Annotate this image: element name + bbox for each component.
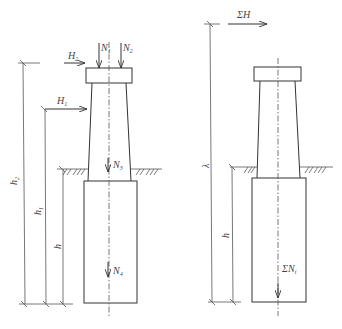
right-h-dimension-label: h xyxy=(220,233,231,238)
h1-dimension-label: h1 xyxy=(32,207,44,215)
right-ground-left xyxy=(230,167,257,173)
sum-h-force-label: ΣH xyxy=(236,9,251,20)
right-h-dimension-line xyxy=(229,164,235,302)
n2-force-label: N2 xyxy=(122,42,133,54)
left-footing xyxy=(84,181,137,303)
right-pier-diagram: ΣH ΣNi λ h xyxy=(200,9,333,316)
left-ground-right xyxy=(131,169,162,175)
left-shaft-right-edge xyxy=(126,83,131,181)
h-dimension-line xyxy=(59,166,65,304)
h1-dimension-line xyxy=(41,106,47,304)
lambda-dimension-label: λ xyxy=(200,163,211,169)
left-shaft-left-edge xyxy=(88,83,92,181)
h-dimension-label: h xyxy=(52,244,63,249)
h2-dimension-label: h2 xyxy=(8,177,20,185)
h2-force-label: H2 xyxy=(67,50,78,62)
left-pier-diagram: H2 H1 N1 N2 N3 N4 h2 h1 xyxy=(8,42,162,316)
left-ground-left xyxy=(57,169,88,175)
h2-dimension-line xyxy=(18,60,40,304)
right-shaft-right-edge xyxy=(295,81,300,178)
right-ground-right xyxy=(300,167,333,173)
n4-force-label: N4 xyxy=(112,265,123,277)
right-pier-cap xyxy=(254,67,301,81)
lambda-dimension-line xyxy=(204,21,220,302)
sum-n-force-label: ΣNi xyxy=(281,263,297,275)
right-shaft-left-edge xyxy=(257,81,260,178)
right-bottom-dimension-baseline xyxy=(208,299,241,305)
n3-force-label: N3 xyxy=(112,159,123,171)
h1-force-label: H1 xyxy=(56,95,67,107)
diagram-svg: H2 H1 N1 N2 N3 N4 h2 h1 xyxy=(0,0,342,329)
pier-foundation-load-diagram: H2 H1 N1 N2 N3 N4 h2 h1 xyxy=(0,0,342,329)
right-footing xyxy=(252,178,306,302)
